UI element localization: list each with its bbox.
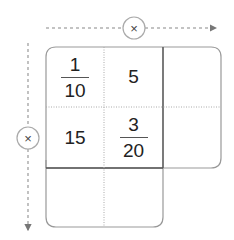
fraction: 1 10: [61, 55, 89, 100]
fraction-bar: [120, 137, 148, 138]
column-multiply-symbol: ×: [127, 19, 141, 37]
cell-r1-c0: 15: [46, 107, 104, 168]
row-multiply-symbol: ×: [21, 129, 35, 147]
cell-r0-c0: 1 10: [46, 47, 104, 107]
fraction: 3 20: [120, 115, 148, 160]
cell-r1-c1: 3 20: [104, 107, 163, 168]
numerator: 3: [128, 115, 139, 134]
numerator: 1: [70, 55, 81, 74]
denominator: 10: [64, 81, 85, 100]
fraction-bar: [61, 77, 89, 78]
denominator: 20: [123, 141, 144, 160]
cell-r0-c1: 5: [104, 47, 163, 107]
